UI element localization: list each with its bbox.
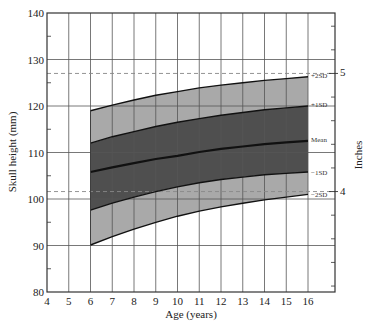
y-axis-title: Skull height (mm): [6, 111, 19, 192]
y2-tick-label: 5: [340, 66, 346, 78]
y-tick-labels: 8090100110120130140: [28, 7, 45, 298]
sd-label: −2SD: [311, 191, 327, 199]
y-tick-label: 140: [28, 7, 45, 19]
x-tick-label: 4: [44, 295, 50, 307]
x-axis-title: Age (years): [165, 308, 217, 321]
x-tick-label: 15: [281, 295, 293, 307]
y2-tick-label: 4: [340, 185, 346, 197]
sd-label: Mean: [311, 136, 327, 144]
x-tick-label: 7: [110, 295, 116, 307]
x-tick-label: 13: [237, 295, 249, 307]
y-tick-label: 120: [28, 100, 45, 112]
x-tick-label: 16: [303, 295, 315, 307]
x-tick-label: 9: [153, 295, 159, 307]
x-tick-label: 8: [131, 295, 137, 307]
y-tick-label: 110: [28, 147, 45, 159]
skull-height-chart: 45678910111213141516 8090100110120130140…: [0, 0, 371, 331]
y-tick-label: 130: [28, 54, 45, 66]
x-tick-label: 10: [172, 295, 184, 307]
y-tick-label: 100: [28, 193, 45, 205]
x-tick-label: 5: [66, 295, 72, 307]
x-tick-label: 12: [216, 295, 227, 307]
x-tick-label: 14: [259, 295, 271, 307]
y-tick-label: 80: [33, 286, 45, 298]
sd-label: −1SD: [311, 169, 327, 177]
sd-curve-labels: +2SD+1SDMean−1SD−2SD: [311, 72, 327, 200]
sd-label: +1SD: [311, 101, 327, 109]
y-tick-label: 90: [33, 240, 45, 252]
sd-label: +2SD: [311, 72, 327, 80]
y2-tick-labels: 45: [340, 66, 346, 196]
y2-axis-title: Inches: [352, 141, 364, 170]
x-tick-labels: 45678910111213141516: [44, 295, 314, 307]
x-tick-label: 6: [88, 295, 94, 307]
x-tick-label: 11: [194, 295, 205, 307]
